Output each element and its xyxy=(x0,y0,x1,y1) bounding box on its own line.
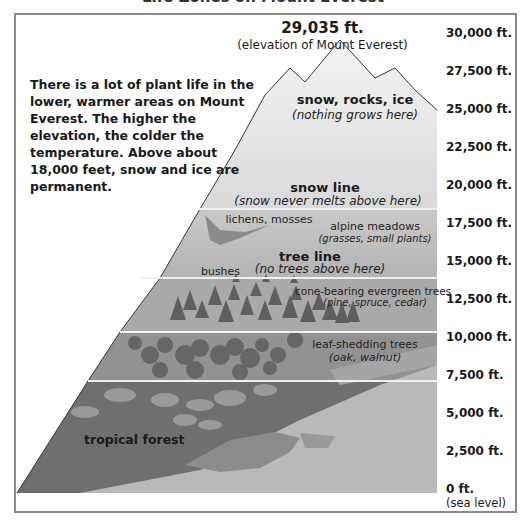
axis-tick: 27,500 ft. xyxy=(446,64,512,78)
summit-zone-note: (nothing grows here) xyxy=(280,108,430,122)
axis-tick: 17,500 ft. xyxy=(446,216,512,230)
axis-tick: 30,000 ft. xyxy=(446,26,512,40)
tropical-label: tropical forest xyxy=(84,432,185,447)
deciduous-title: leaf-shedding trees xyxy=(310,338,420,351)
tree-line-note: (no trees above here) xyxy=(250,262,390,276)
deciduous-note: (oak, walnut) xyxy=(320,351,410,364)
summit-zone-title: snow, rocks, ice xyxy=(290,92,420,107)
axis-tick: 10,000 ft. xyxy=(446,330,512,344)
axis-tick: 25,000 ft. xyxy=(446,102,512,116)
axis-tick: 7,500 ft. xyxy=(446,368,504,382)
snow-line-title: snow line xyxy=(250,180,400,195)
peak-caption: (elevation of Mount Everest) xyxy=(200,38,445,52)
alpine-title: alpine meadows xyxy=(315,220,435,233)
axis-tick: 5,000 ft. xyxy=(446,406,504,420)
bushes-label: bushes xyxy=(198,265,243,278)
axis-tick: 22,500 ft. xyxy=(446,140,512,154)
intro-text: There is a lot of plant life in the lowe… xyxy=(30,76,260,195)
sea-level-caption: (sea level) xyxy=(446,496,506,510)
axis-tick: 12,500 ft. xyxy=(446,292,512,306)
axis-tick: 2,500 ft. xyxy=(446,444,504,458)
evergreen-title: cone-bearing evergreen trees xyxy=(295,285,440,297)
axis-tick: 15,000 ft. xyxy=(446,254,512,268)
lichens-label: lichens, mosses xyxy=(224,213,314,226)
axis-tick: 0 ft. xyxy=(446,482,474,496)
evergreen-note: (pine, spruce, cedar) xyxy=(320,297,430,308)
alpine-note: (grasses, small plants) xyxy=(315,233,435,244)
axis-tick: 20,000 ft. xyxy=(446,178,512,192)
peak-elevation: 29,035 ft. xyxy=(200,19,445,37)
snow-line-note: (snow never melts above here) xyxy=(228,194,428,208)
